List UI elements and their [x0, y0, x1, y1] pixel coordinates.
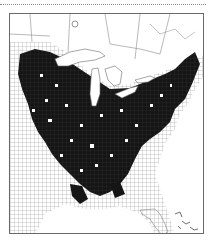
- top-dotted-rule: [0, 4, 206, 5]
- map-frame: [9, 13, 204, 234]
- distribution-map: [10, 14, 204, 234]
